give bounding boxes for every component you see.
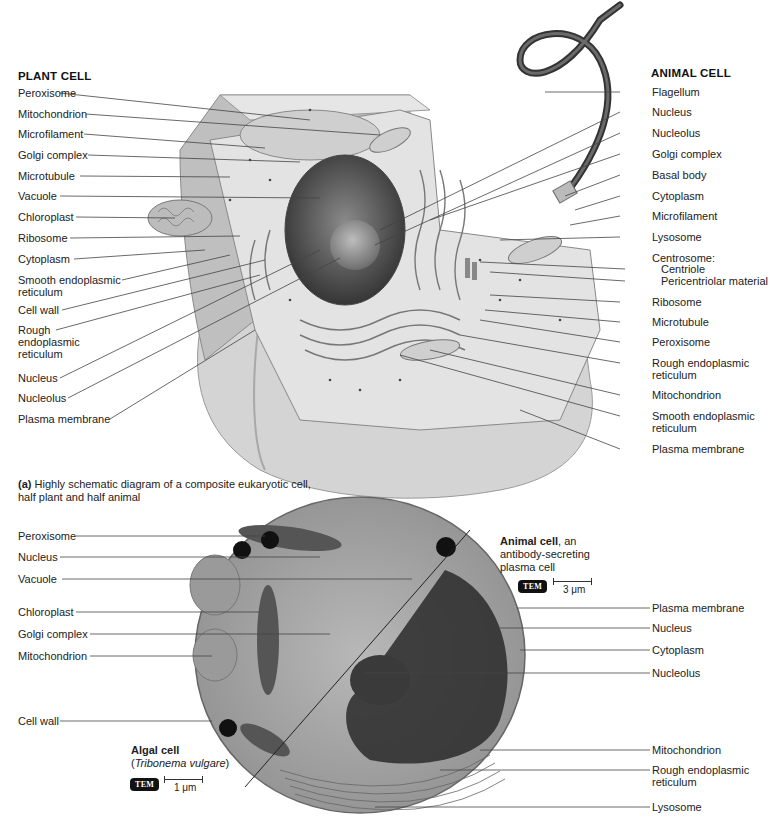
algal-cell-caption: Algal cell (Tribonema vulgare) xyxy=(131,744,229,770)
label-algal-peroxisome: Peroxisome xyxy=(18,530,76,543)
label-plant-plasma-membrane: Plasma membrane xyxy=(18,413,110,426)
label-plant-smooth-er-2: reticulum xyxy=(18,286,63,299)
label-tem-lysosome: Lysosome xyxy=(652,801,702,814)
label-animal-ribosome: Ribosome xyxy=(652,296,702,309)
label-algal-nucleus: Nucleus xyxy=(18,551,58,564)
label-plant-cell-wall: Cell wall xyxy=(18,304,59,317)
paren-close: ) xyxy=(226,757,230,769)
label-plant-cytoplasm: Cytoplasm xyxy=(18,253,70,266)
caption-line-2: half plant and half animal xyxy=(18,491,311,504)
caption-line-1: Highly schematic diagram of a composite … xyxy=(31,478,310,490)
label-tem-rough-er-2: reticulum xyxy=(652,776,697,789)
animal-cell-desc-2: plasma cell xyxy=(500,561,590,574)
composite-cell-drawing xyxy=(148,5,620,498)
tem-micrograph xyxy=(190,497,525,813)
label-tem-cytoplasm: Cytoplasm xyxy=(652,644,704,657)
label-algal-cell-wall: Cell wall xyxy=(18,715,59,728)
label-animal-nucleolus: Nucleolus xyxy=(652,127,700,140)
figure-caption-a: (a) Highly schematic diagram of a compos… xyxy=(18,478,311,504)
label-plant-microfilament: Microfilament xyxy=(18,128,83,141)
label-algal-golgi: Golgi complex xyxy=(18,628,88,641)
label-tem-mitochondrion: Mitochondrion xyxy=(652,744,721,757)
label-plant-golgi: Golgi complex xyxy=(18,149,88,162)
label-plant-peroxisome: Peroxisome xyxy=(18,87,76,100)
tem-badge-animal: TEM xyxy=(518,580,547,593)
label-plant-vacuole: Vacuole xyxy=(18,190,57,203)
label-tem-nucleolus: Nucleolus xyxy=(652,667,700,680)
scale-bar-line xyxy=(553,581,592,582)
plant-cell-header: PLANT CELL xyxy=(18,70,92,82)
label-animal-smooth-er-2: reticulum xyxy=(652,422,697,435)
animal-cell-caption: Animal cell, an antibody-secreting plasm… xyxy=(500,535,590,574)
label-plant-nucleus: Nucleus xyxy=(18,372,58,385)
label-tem-nucleus: Nucleus xyxy=(652,622,692,635)
algal-cell-title: Algal cell xyxy=(131,744,179,756)
label-animal-mitochondrion: Mitochondrion xyxy=(652,389,721,402)
animal-cell-title-suffix: , an xyxy=(558,535,576,547)
label-plant-nucleolus: Nucleolus xyxy=(18,392,66,405)
label-animal-cytoplasm: Cytoplasm xyxy=(652,190,704,203)
label-plant-mitochondrion: Mitochondrion xyxy=(18,108,87,121)
label-animal-golgi: Golgi complex xyxy=(652,148,722,161)
tem-badge-algal: TEM xyxy=(130,778,159,791)
label-algal-mitochondrion: Mitochondrion xyxy=(18,650,87,663)
algal-species: Tribonema vulgare xyxy=(135,757,226,769)
label-animal-peroxisome: Peroxisome xyxy=(652,336,710,349)
label-animal-flagellum: Flagellum xyxy=(652,86,700,99)
label-animal-plasma-membrane: Plasma membrane xyxy=(652,443,744,456)
label-algal-chloroplast: Chloroplast xyxy=(18,606,74,619)
label-plant-ribosome: Ribosome xyxy=(18,232,68,245)
scale-bar-label: 3 μm xyxy=(563,584,585,595)
scale-bar-line xyxy=(164,779,203,780)
label-animal-microtubule: Microtubule xyxy=(652,316,709,329)
caption-prefix: (a) xyxy=(18,478,31,490)
animal-cell-title: Animal cell xyxy=(500,535,558,547)
label-animal-nucleus: Nucleus xyxy=(652,106,692,119)
label-plant-rough-er-3: reticulum xyxy=(18,348,63,361)
label-animal-rough-er-2: reticulum xyxy=(652,369,697,382)
label-plant-chloroplast: Chloroplast xyxy=(18,211,74,224)
label-animal-pericentriolar: Pericentriolar material xyxy=(661,275,768,288)
label-algal-vacuole: Vacuole xyxy=(18,573,57,586)
scale-bar-animal: 3 μm xyxy=(553,577,593,597)
animal-cell-desc-1: antibody-secreting xyxy=(500,548,590,561)
animal-cell-header: ANIMAL CELL xyxy=(651,67,731,79)
label-animal-microfilament: Microfilament xyxy=(652,210,717,223)
scale-bar-algal: 1 μm xyxy=(164,775,204,795)
label-plant-microtubule: Microtubule xyxy=(18,170,75,183)
label-animal-basal-body: Basal body xyxy=(652,169,706,182)
label-tem-plasma-membrane: Plasma membrane xyxy=(652,602,744,615)
scale-bar-label: 1 μm xyxy=(174,782,196,793)
label-animal-lysosome: Lysosome xyxy=(652,231,702,244)
